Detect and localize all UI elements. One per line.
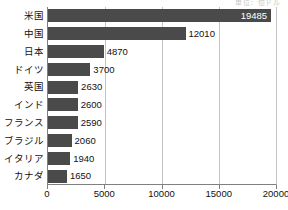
x-axis-tick-label: 15000 xyxy=(206,189,232,199)
bar-rows: 米国19485中国12010日本4870ドイツ3700英国2630インド2600… xyxy=(0,7,288,185)
bar-track: 1940 xyxy=(48,149,277,167)
bar-track: 2600 xyxy=(48,96,277,114)
bar xyxy=(48,152,70,165)
bar-value-label: 2600 xyxy=(81,100,102,110)
x-axis-tick-label: 20000 xyxy=(263,189,288,199)
bar xyxy=(48,116,78,129)
bar-track: 2630 xyxy=(48,78,277,96)
bar-value-label: 2590 xyxy=(81,118,102,128)
bar-value-label: 1940 xyxy=(73,154,94,164)
bar-value-label: 2060 xyxy=(75,136,96,146)
category-label: カナダ xyxy=(0,167,44,185)
cropped-header-strip: 単位：億ドル xyxy=(0,0,288,6)
bar xyxy=(48,98,78,111)
bar-row: 中国12010 xyxy=(0,25,288,43)
bar-row: フランス2590 xyxy=(0,114,288,132)
bar-row: 日本4870 xyxy=(0,43,288,61)
bar-value-label: 3700 xyxy=(93,65,114,75)
x-axis-tick-label: 10000 xyxy=(148,189,174,199)
bar-row: イタリア1940 xyxy=(0,149,288,167)
bar-track: 12010 xyxy=(48,25,277,43)
category-label: 中国 xyxy=(0,25,44,43)
bar-track: 4870 xyxy=(48,43,277,61)
bar xyxy=(48,63,90,76)
bar-value-label: 1650 xyxy=(70,171,91,181)
bar-row: 米国19485 xyxy=(0,7,288,25)
bar-value-label: 2630 xyxy=(81,82,102,92)
bar-row: 英国2630 xyxy=(0,78,288,96)
bar xyxy=(48,81,78,94)
bar-track: 2060 xyxy=(48,132,277,150)
category-label: ブラジル xyxy=(0,132,44,150)
bar-row: ブラジル2060 xyxy=(0,132,288,150)
category-label: インド xyxy=(0,96,44,114)
category-label: 米国 xyxy=(0,7,44,25)
bar-value-label: 4870 xyxy=(107,47,128,57)
bar-track: 19485 xyxy=(48,7,277,25)
category-label: フランス xyxy=(0,114,44,132)
category-label: 日本 xyxy=(0,43,44,61)
bar xyxy=(48,134,72,147)
bar-value-label: 12010 xyxy=(189,29,215,39)
bar: 19485 xyxy=(48,9,271,22)
bar-row: ドイツ3700 xyxy=(0,60,288,78)
bar-track: 3700 xyxy=(48,60,277,78)
bar xyxy=(48,170,67,183)
bar xyxy=(48,45,104,58)
cropped-header-text: 単位：億ドル xyxy=(235,0,280,6)
category-label: 英国 xyxy=(0,78,44,96)
x-axis-tick-label: 5000 xyxy=(94,189,115,199)
bar-value-label: 19485 xyxy=(241,11,267,21)
bar xyxy=(48,27,186,40)
x-axis-labels: 05000100001500020000 xyxy=(0,189,288,203)
category-label: ドイツ xyxy=(0,60,44,78)
bar-track: 1650 xyxy=(48,167,277,185)
x-axis-tick-label: 0 xyxy=(44,189,49,199)
bar-row: カナダ1650 xyxy=(0,167,288,185)
category-label: イタリア xyxy=(0,149,44,167)
bar-row: インド2600 xyxy=(0,96,288,114)
bar-chart: 単位：億ドル 米国19485中国12010日本4870ドイツ3700英国2630… xyxy=(0,0,288,210)
bar-track: 2590 xyxy=(48,114,277,132)
